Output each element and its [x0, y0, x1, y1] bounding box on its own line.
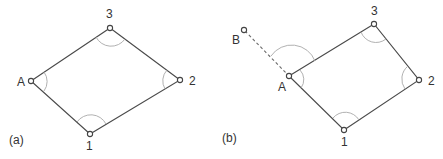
angle-arc-a-1 — [77, 115, 106, 124]
label-b-1: 1 — [341, 135, 348, 149]
traverse-polygon-a — [31, 28, 180, 134]
label-b-3: 3 — [371, 4, 378, 18]
angle-arc-a-A — [44, 72, 47, 91]
angle-arc-a-3 — [96, 37, 125, 46]
caption-b: (b) — [222, 131, 237, 145]
station-a-3 — [107, 25, 112, 30]
traverse-polygon-b — [289, 24, 419, 130]
label-a-A: A — [17, 75, 25, 89]
station-a-A — [28, 78, 33, 83]
figure-b: B A 3 2 1 (b) — [222, 4, 435, 149]
station-b-1 — [341, 127, 346, 132]
figure-a: A 3 2 1 (a) — [9, 7, 196, 153]
label-a-1: 1 — [86, 139, 93, 153]
label-a-2: 2 — [189, 74, 196, 88]
label-b-A: A — [278, 80, 286, 94]
label-a-3: 3 — [106, 7, 113, 21]
angle-arc-b-A — [300, 70, 304, 88]
station-a-2 — [177, 77, 182, 82]
label-b-B: B — [232, 33, 240, 47]
backsight-line-B-A — [245, 31, 288, 75]
station-b-B — [241, 27, 246, 32]
station-b-A — [286, 73, 291, 78]
angle-arc-b-1 — [333, 112, 359, 120]
caption-a: (a) — [9, 133, 24, 147]
angle-arc-a-2 — [163, 70, 167, 89]
angle-arc-b-BA3 — [271, 45, 315, 61]
station-b-2 — [416, 77, 421, 82]
angle-arc-b-2 — [402, 66, 408, 89]
traverse-diagram: A 3 2 1 (a) B A 3 2 1 (b) — [0, 0, 443, 159]
station-a-1 — [87, 131, 92, 136]
label-b-2: 2 — [428, 74, 435, 88]
station-b-3 — [371, 21, 376, 26]
